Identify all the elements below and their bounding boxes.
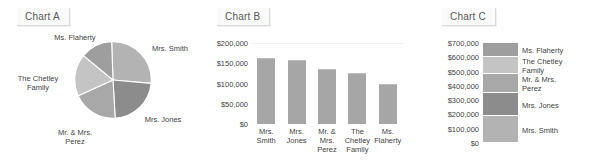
chart-c-y-tick-label: $500,000 — [448, 67, 479, 76]
chart-b-x-tick-label: The Chetley Family — [342, 127, 372, 154]
chart-b-title: Chart B — [217, 8, 270, 26]
chart-c-stack-segment — [483, 93, 518, 116]
chart-c-legend-label: Mrs. Jones — [522, 101, 559, 110]
chart-c-legend-label: Mr. & Mrs. Perez — [522, 75, 556, 93]
chart-b-x-tick-label: Mrs. Jones — [281, 127, 311, 145]
chart-b-bar — [348, 43, 366, 124]
chart-b-panel: Chart B $0$50,000$100,000$150,000$200,00… — [205, 0, 415, 161]
chart-b-x-tick-label: Mrs. Smith — [251, 127, 281, 145]
chart-c-legend: Ms. FlahertyThe Chetley FamilyMr. & Mrs.… — [522, 43, 590, 143]
pie-slice — [112, 42, 152, 84]
chart-c-title: Chart C — [442, 8, 496, 26]
chart-c-legend-label: Ms. Flaherty — [522, 45, 563, 54]
chart-b-y-tick-label: $50,000 — [221, 99, 248, 108]
chart-c-stacked-bar — [483, 43, 518, 143]
chart-c-y-tick-label: $700,000 — [448, 39, 479, 48]
pie-slice-group — [75, 42, 151, 118]
chart-b-bar-fill — [288, 60, 306, 124]
pie-svg — [74, 41, 152, 119]
chart-b-plot-area — [251, 43, 403, 124]
chart-c-stack-segment — [483, 43, 518, 57]
chart-c-legend-label: The Chetley Family — [522, 57, 562, 75]
chart-b-bar-fill — [257, 58, 275, 124]
pie-label-perez: Mr. & Mrs. Perez — [44, 128, 106, 146]
pie-slice — [113, 80, 151, 118]
chart-a-title: Chart A — [17, 8, 70, 26]
chart-b-x-tick-label: Mr. & Mrs. Perez — [312, 127, 342, 154]
pie-label-chetley-family: The Chetley Family — [6, 74, 70, 92]
chart-c-stack-segment — [483, 57, 518, 75]
chart-c-y-tick-label: $100,000 — [448, 124, 479, 133]
chart-c-y-tick-label: $400,000 — [448, 81, 479, 90]
chart-c-y-tick-label: $300,000 — [448, 96, 479, 105]
chart-c-y-tick-label: $600,000 — [448, 53, 479, 62]
chart-c-stack-segment — [483, 116, 518, 143]
pie-chart-a — [74, 41, 152, 119]
chart-c-legend-label: Mrs. Smith — [522, 126, 558, 135]
chart-b-bar-fill — [318, 69, 336, 124]
chart-c-panel: Chart C $0$100,000$200,000$300,000$400,0… — [420, 0, 590, 161]
chart-b-y-tick-label: $100,000 — [217, 79, 248, 88]
chart-a-panel: Chart A Ms. Flaherty Mrs. Smith The Chet… — [0, 0, 200, 161]
chart-c-stack-segment — [483, 74, 518, 93]
chart-b-bar — [318, 43, 336, 124]
chart-c-y-tick-label: $200,000 — [448, 110, 479, 119]
chart-c-y-tick-label: $0 — [471, 139, 479, 148]
chart-b-y-tick-label: $150,000 — [217, 59, 248, 68]
chart-b-bar — [379, 43, 397, 124]
chart-b-bar-fill — [379, 84, 397, 124]
chart-b-y-tick-label: $200,000 — [217, 39, 248, 48]
chart-b-bar-fill — [348, 73, 366, 124]
chart-b-y-tick-label: $0 — [240, 120, 248, 129]
chart-b-x-tick-label: Ms. Flaherty — [373, 127, 403, 145]
chart-c-y-axis: $0$100,000$200,000$300,000$400,000$500,0… — [420, 43, 479, 143]
chart-b-y-axis: $0$50,000$100,000$150,000$200,000 — [205, 43, 248, 124]
chart-b-bar — [257, 43, 275, 124]
chart-b-bar — [288, 43, 306, 124]
